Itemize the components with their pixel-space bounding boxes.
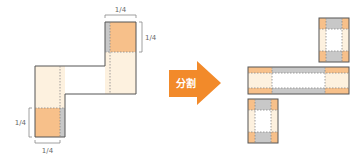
dim-label-bottom-width: 1/4 bbox=[42, 147, 54, 155]
dim-bracket-left bbox=[29, 108, 32, 137]
top-grey-strip bbox=[105, 22, 110, 52]
divide-arrow: 分割 bbox=[169, 61, 221, 105]
top-piece bbox=[319, 18, 349, 62]
diagram-canvas: 1/4 1/4 1/4 1/4 分割 bbox=[0, 0, 363, 167]
arrow-label: 分割 bbox=[176, 77, 196, 89]
left-figure: 1/4 1/4 1/4 1/4 bbox=[15, 6, 157, 155]
bottom-piece bbox=[248, 99, 278, 143]
dim-bracket-right bbox=[139, 22, 142, 52]
middle-piece bbox=[248, 67, 349, 94]
dim-bracket-top bbox=[105, 15, 136, 18]
dim-bracket-bottom bbox=[35, 140, 60, 143]
dim-label-top-height: 1/4 bbox=[145, 34, 157, 42]
dim-label-bottom-height: 1/4 bbox=[15, 119, 27, 127]
bottom-grey-strip bbox=[60, 108, 65, 137]
dim-label-top-width: 1/4 bbox=[115, 6, 127, 14]
